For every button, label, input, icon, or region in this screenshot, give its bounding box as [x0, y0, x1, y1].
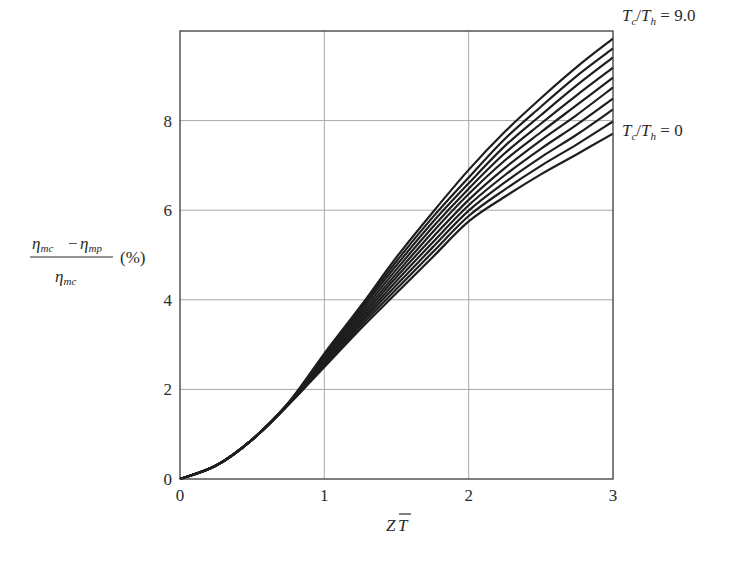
x-tick-label: 2 [464, 486, 473, 505]
ylabel-eta-mc: ηmc [32, 234, 53, 254]
x-tick-label: 1 [320, 486, 329, 505]
x-axis-ticks: 0123 [176, 486, 618, 505]
ylabel-minus: − [68, 234, 78, 253]
annotation-bottom-curve: Tc/Th = 0 [622, 121, 683, 142]
data-curves [180, 39, 613, 479]
y-tick-label: 2 [164, 380, 173, 399]
annotation-top-curve: Tc/Th = 9.0 [622, 6, 695, 27]
ylabel-eta-mc-denominator: ηmc [55, 267, 76, 287]
ylabel-unit: (%) [120, 248, 145, 267]
curve-5 [180, 87, 613, 479]
curve-10 [180, 39, 613, 479]
y-tick-label: 0 [164, 470, 173, 489]
y-axis-label: ηmc − ηmp ηmc (%) [30, 234, 145, 287]
x-axis-label-main: Z [386, 516, 396, 535]
y-axis-ticks: 02468 [164, 112, 173, 489]
y-tick-label: 8 [164, 112, 173, 131]
curve-1 [180, 134, 613, 479]
chart: 0123 02468 Z T ηmc − ηmp ηmc (%) Tc/Th =… [0, 0, 740, 563]
ylabel-eta-mp: ηmp [80, 234, 102, 254]
y-tick-label: 6 [164, 201, 173, 220]
x-axis-label-var: T [398, 516, 409, 535]
x-axis-label: Z T [386, 514, 411, 535]
y-tick-label: 4 [164, 291, 173, 310]
x-tick-label: 3 [609, 486, 618, 505]
plot-frame [180, 31, 613, 479]
svg-text:Tc/Th = 9.0: Tc/Th = 9.0 [622, 6, 695, 27]
grid-lines [180, 31, 613, 479]
x-tick-label: 0 [176, 486, 185, 505]
svg-text:Tc/Th = 0: Tc/Th = 0 [622, 121, 683, 142]
